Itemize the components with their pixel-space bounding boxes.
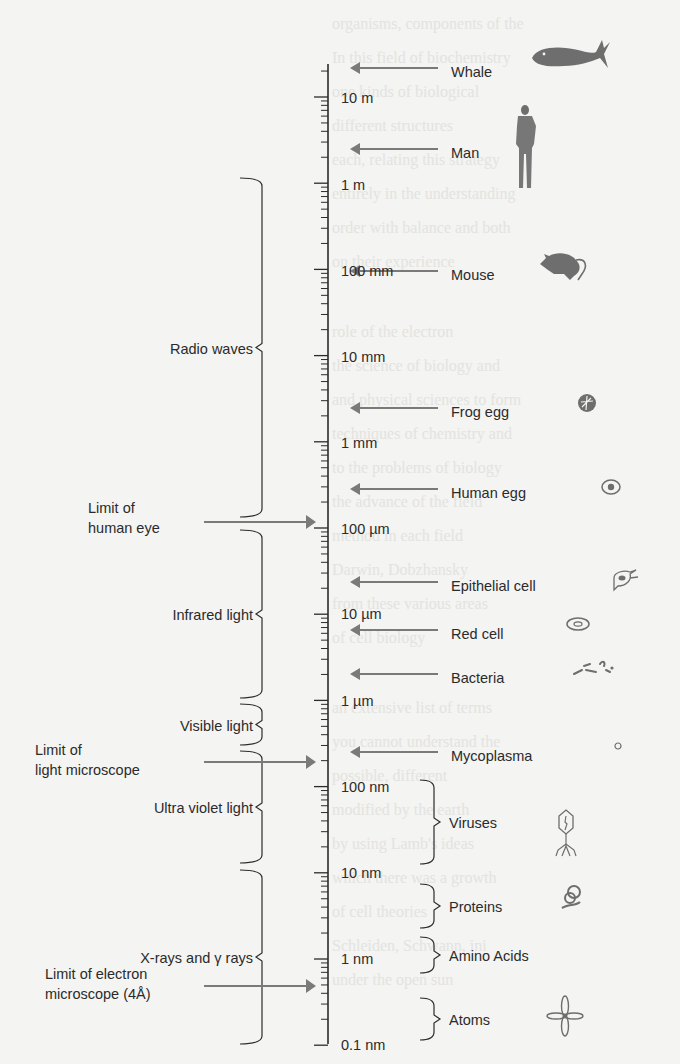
atom-icon (547, 996, 583, 1036)
limit-arrows (204, 515, 316, 993)
object-label-man: Man (451, 145, 479, 162)
red-cell-icon (567, 618, 589, 630)
object-label-mouse: Mouse (451, 267, 495, 284)
object-label-viruses: Viruses (449, 815, 497, 832)
scale-label: 100 µm (341, 521, 390, 538)
object-label-atoms: Atoms (449, 1012, 490, 1029)
scale-label: 0.1 nm (341, 1037, 385, 1054)
radiation-band-label: Visible light (180, 718, 253, 735)
radiation-band-label: Ultra violet light (154, 800, 253, 817)
object-label-human-egg: Human egg (451, 485, 526, 502)
limit-label: Limit of electron (45, 966, 147, 983)
bacteria-icon (574, 662, 614, 674)
scale-label: 1 nm (341, 951, 373, 968)
scale-label: 100 nm (341, 779, 389, 796)
object-label-frog-egg: Frog egg (451, 404, 509, 421)
limit-label: light microscope (35, 762, 140, 779)
object-label-mycoplasma: Mycoplasma (451, 748, 532, 765)
scale-label: 1 mm (341, 435, 377, 452)
protein-icon (562, 886, 580, 908)
man-icon (516, 105, 536, 188)
object-label-red-cell: Red cell (451, 626, 503, 643)
object-label-bacteria: Bacteria (451, 670, 504, 687)
mouse-icon (540, 253, 585, 280)
frog-egg-icon (578, 394, 596, 412)
size-scale-figure: organisms, components of theIn this fiel… (0, 0, 680, 1064)
limit-label: Limit of (88, 500, 135, 517)
object-label-epithelial-cell: Epithelial cell (451, 578, 536, 595)
radiation-band-label: X-rays and γ rays (140, 950, 253, 967)
scale-label: 10 mm (341, 349, 385, 366)
object-label-proteins: Proteins (449, 899, 502, 916)
object-label-whale: Whale (451, 64, 492, 81)
object-brackets (420, 780, 440, 1040)
log-scale-axis (314, 64, 328, 1045)
human-egg-icon (602, 480, 620, 494)
limit-label: Limit of (35, 742, 82, 759)
object-arrows (350, 62, 438, 758)
virus-icon (556, 810, 576, 856)
scale-label: 1 m (341, 177, 365, 194)
scale-label: 10 m (341, 90, 373, 107)
object-label-amino-acids: Amino Acids (449, 948, 529, 965)
whale-icon (532, 40, 610, 68)
limit-label: human eye (88, 520, 160, 537)
radiation-band-label: Radio waves (170, 341, 253, 358)
scale-label: 10 µm (341, 606, 382, 623)
limit-label: microscope (4Å) (45, 986, 151, 1003)
scale-label: 10 nm (341, 865, 381, 882)
radiation-band-label: Infrared light (172, 607, 253, 624)
mycoplasma-icon (615, 743, 621, 749)
organism-drawings (516, 40, 638, 1036)
scale-label: 100 mm (341, 263, 393, 280)
scale-label: 1 µm (341, 693, 374, 710)
epithelial-cell-icon (614, 570, 638, 590)
